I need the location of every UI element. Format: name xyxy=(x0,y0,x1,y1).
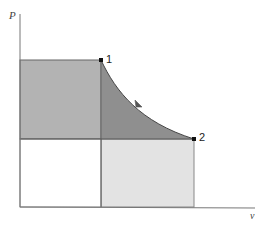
x-axis xyxy=(20,207,255,208)
direction-arrow-icon xyxy=(135,100,142,107)
point-2-label: 2 xyxy=(199,131,205,143)
y-axis-label: P xyxy=(9,9,16,21)
pv-diagram xyxy=(0,0,269,229)
region-under-curve xyxy=(101,60,194,139)
x-axis-label: v xyxy=(250,210,254,221)
region-lower-right xyxy=(101,139,194,207)
point-1-label: 1 xyxy=(106,53,112,65)
state-point-1 xyxy=(99,58,103,62)
region-upper-left xyxy=(20,60,101,139)
state-point-2 xyxy=(192,137,196,141)
region-lower-left xyxy=(20,139,101,207)
